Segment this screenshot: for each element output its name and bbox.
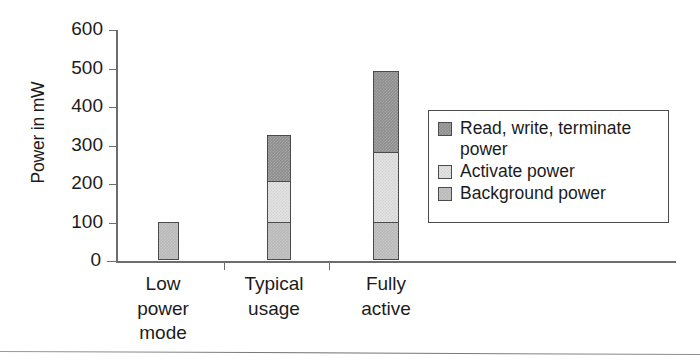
x-category-line: Low: [122, 272, 204, 297]
legend-label-background-power: Background power: [460, 183, 606, 204]
bar-segment-background-power: [267, 222, 291, 261]
x-category-line: Fully: [345, 272, 427, 297]
legend-item-read-write-terminate-power: Read, write, terminate power: [438, 118, 668, 160]
legend: Read, write, terminate power Activate po…: [428, 110, 669, 223]
legend-swatch-activate-power: [438, 165, 452, 179]
bar-segment-background-power: [158, 222, 179, 261]
legend-swatch-read-write-terminate-power: [438, 122, 452, 136]
y-tick-600: 600: [109, 30, 117, 31]
y-tick-200: 200: [109, 184, 117, 185]
x-category-label-fully-active: Fully active: [345, 272, 427, 321]
bar-segment-read-write-terminate-power: [373, 71, 399, 152]
legend-label-activate-power: Activate power: [460, 161, 575, 182]
power-breakdown-bar-chart: Power in mW 600 500 400 300 200 100 0: [0, 0, 700, 364]
y-tick-label-600: 600: [71, 19, 103, 39]
x-category-line: active: [345, 297, 427, 322]
bar-segment-background-power: [373, 222, 399, 261]
y-tick-100: 100: [109, 223, 117, 224]
x-category-label-low-power-mode: Low power mode: [122, 272, 204, 346]
y-tick-label-300: 300: [71, 135, 103, 155]
x-category-line: usage: [232, 297, 316, 322]
plot-area: 600 500 400 300 200 100 0: [116, 30, 424, 262]
x-category-label-typical-usage: Typical usage: [232, 272, 316, 321]
bar-segment-activate-power: [267, 181, 291, 222]
page-edge-line: [0, 351, 700, 355]
x-tick-1: [224, 261, 225, 270]
y-tick-label-500: 500: [71, 58, 103, 78]
y-tick-400: 400: [109, 107, 117, 108]
y-tick-label-0: 0: [90, 250, 101, 270]
y-tick-500: 500: [109, 69, 117, 70]
x-category-line: Typical: [232, 272, 316, 297]
legend-swatch-background-power: [438, 187, 452, 201]
bar-low-power-mode: [158, 222, 179, 261]
x-category-line: power: [122, 297, 204, 322]
y-tick-label-100: 100: [71, 212, 103, 232]
y-tick-label-400: 400: [71, 96, 103, 116]
legend-label-read-write-terminate-power: Read, write, terminate power: [460, 118, 665, 160]
scanned-page-edge: [0, 349, 700, 356]
y-tick-300: 300: [109, 146, 117, 147]
y-tick-label-200: 200: [71, 173, 103, 193]
bar-segment-activate-power: [373, 152, 399, 222]
x-category-line: mode: [122, 321, 204, 346]
bar-typical-usage: [267, 135, 291, 261]
bar-fully-active: [373, 71, 399, 260]
legend-item-activate-power: Activate power: [438, 161, 668, 182]
x-axis-line: [116, 261, 676, 263]
legend-item-background-power: Background power: [438, 183, 668, 204]
y-axis-title: Power in mW: [28, 33, 49, 233]
x-tick-2: [329, 261, 330, 270]
y-tick-0: 0: [107, 261, 118, 262]
bar-segment-read-write-terminate-power: [267, 135, 291, 181]
